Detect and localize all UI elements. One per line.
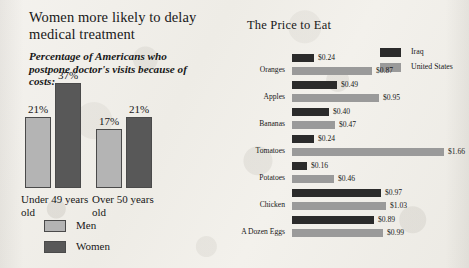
bar-value-us-oranges: $0.87 xyxy=(376,66,393,75)
legend-swatch-men xyxy=(44,220,66,232)
category-label-tomatoes: Tomatoes xyxy=(225,146,285,155)
category-label-potatoes: Potatoes xyxy=(225,173,285,182)
bar-value-iraq-a-dozen-eggs: $0.89 xyxy=(378,215,395,224)
bar-women-under49 xyxy=(55,83,81,188)
bar-us-apples xyxy=(292,94,379,102)
bar-value-women-over50: 21% xyxy=(119,103,159,115)
category-label-chicken: Chicken xyxy=(225,200,285,209)
legend-label-men: Men xyxy=(76,219,96,231)
category-label-oranges: Oranges xyxy=(225,65,285,74)
legend-swatch-women xyxy=(44,241,66,253)
bar-value-iraq-tomatoes: $0.24 xyxy=(318,134,335,143)
bar-us-chicken xyxy=(292,202,386,210)
bar-us-bananas xyxy=(292,121,335,129)
bar-value-iraq-oranges: $0.24 xyxy=(318,53,335,62)
bar-women-over50 xyxy=(126,117,152,188)
legend-label-women: Women xyxy=(76,240,110,252)
left-chart-panel: Women more likely to delay medical treat… xyxy=(0,0,215,268)
category-label-bananas: Bananas xyxy=(225,119,285,128)
bar-men-under49 xyxy=(25,117,51,188)
bar-iraq-bananas xyxy=(292,108,329,116)
bar-value-us-bananas: $0.47 xyxy=(339,120,356,129)
bar-men-over50 xyxy=(96,129,122,188)
legend-label-united-states: United States xyxy=(411,62,453,71)
category-label-a-dozen-eggs: A Dozen Eggs xyxy=(225,227,285,236)
bar-us-oranges xyxy=(292,67,372,75)
right-chart-panel: The Price to Eat Iraq United States Oran… xyxy=(215,0,469,268)
bar-us-tomatoes xyxy=(292,148,444,156)
bar-iraq-potatoes xyxy=(292,162,307,170)
legend-label-iraq: Iraq xyxy=(411,47,424,56)
bar-iraq-chicken xyxy=(292,189,381,197)
group-label-under49: Under 49 years old xyxy=(21,193,91,218)
bar-value-us-tomatoes: $1.66 xyxy=(448,147,465,156)
bar-value-iraq-potatoes: $0.16 xyxy=(311,161,328,170)
category-label-apples: Apples xyxy=(225,92,285,101)
bar-value-men-under49: 21% xyxy=(18,103,58,115)
bar-us-a-dozen-eggs xyxy=(292,229,383,237)
bar-value-women-under49: 37% xyxy=(48,69,88,81)
bar-iraq-oranges xyxy=(292,54,314,62)
bar-iraq-a-dozen-eggs xyxy=(292,216,374,224)
bar-value-us-apples: $0.95 xyxy=(383,93,400,102)
bar-value-iraq-apples: $0.49 xyxy=(341,80,358,89)
bar-us-potatoes xyxy=(292,175,334,183)
bar-value-us-chicken: $1.03 xyxy=(390,201,407,210)
group-label-over50: Over 50 years old xyxy=(92,193,162,218)
bar-value-iraq-chicken: $0.97 xyxy=(385,188,402,197)
legend-swatch-iraq xyxy=(380,48,401,57)
vertical-bar-plot: 21% 37% Under 49 years old 17% 21% Over … xyxy=(0,0,215,268)
bar-value-us-a-dozen-eggs: $0.99 xyxy=(387,228,404,237)
bar-value-us-potatoes: $0.46 xyxy=(338,174,355,183)
bar-iraq-tomatoes xyxy=(292,135,314,143)
bar-value-iraq-bananas: $0.40 xyxy=(333,107,350,116)
bar-iraq-apples xyxy=(292,81,337,89)
right-chart-title: The Price to Eat xyxy=(247,18,331,33)
bar-value-men-over50: 17% xyxy=(89,115,129,127)
